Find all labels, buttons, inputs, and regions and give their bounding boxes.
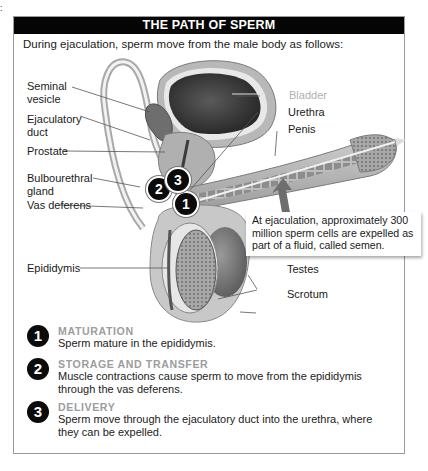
step-number-badge: 2 (27, 358, 49, 380)
diagram-badge-3: 3 (167, 169, 189, 191)
step-title: DELIVERY (58, 401, 115, 413)
semen-callout: At ejaculation, approximately 300 millio… (246, 212, 421, 256)
step-description: Sperm move through the ejaculatory duct … (58, 413, 388, 439)
label-seminal-vesicle: Seminal vesicle (27, 80, 67, 105)
step-number-badge: 1 (27, 325, 49, 347)
label-prostate: Prostate (27, 145, 68, 158)
step-number-badge: 3 (27, 401, 49, 423)
label-epididymis: Epididymis (27, 262, 80, 275)
label-bulbourethral-gland: Bulbourethral gland (27, 172, 92, 197)
label-scrotum: Scrotum (287, 288, 328, 301)
step-description: Muscle contractions cause sperm to move … (58, 370, 388, 396)
label-vas-deferens: Vas deferens (27, 199, 91, 212)
step-description: Sperm mature in the epididymis. (58, 337, 388, 350)
step-title: MATURATION (58, 325, 134, 337)
step-title: STORAGE AND TRANSFER (58, 358, 208, 370)
label-urethra: Urethra (288, 106, 325, 119)
label-bladder: Bladder (289, 89, 327, 102)
label-testes: Testes (287, 263, 319, 276)
diagram-badge-1: 1 (175, 193, 197, 215)
label-ejaculatory-duct: Ejaculatory duct (27, 113, 81, 138)
label-penis: Penis (288, 123, 316, 136)
